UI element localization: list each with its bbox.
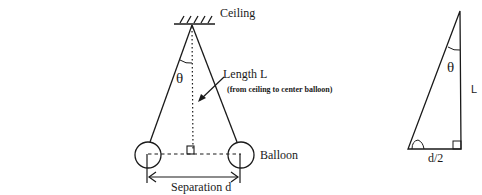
triangle-side-l-label: L <box>471 83 477 95</box>
triangle-theta-label: θ <box>447 59 454 75</box>
theta-arc <box>180 60 192 63</box>
length-note: (from ceiling to center balloon) <box>227 85 333 94</box>
right-string <box>192 25 237 142</box>
balloon-label: Balloon <box>260 148 298 162</box>
right-triangle <box>408 11 461 149</box>
theta-label: θ <box>176 70 183 86</box>
triangle-right-angle-marker <box>453 141 461 149</box>
length-dotted-line <box>192 27 193 150</box>
diagram-canvas: Ceiling θ Length L (from ceiling to cent… <box>0 0 482 195</box>
ceiling <box>174 16 215 24</box>
length-label: Length L <box>223 67 267 81</box>
ceiling-label: Ceiling <box>220 6 255 20</box>
triangle-theta-arc <box>448 47 460 50</box>
left-string <box>150 25 192 142</box>
separation-label: Separation d <box>171 180 231 194</box>
right-balloon <box>228 142 254 168</box>
triangle-base-label: d/2 <box>428 151 443 165</box>
triangle-base-angle-arc <box>412 140 424 149</box>
left-balloon <box>135 142 161 168</box>
